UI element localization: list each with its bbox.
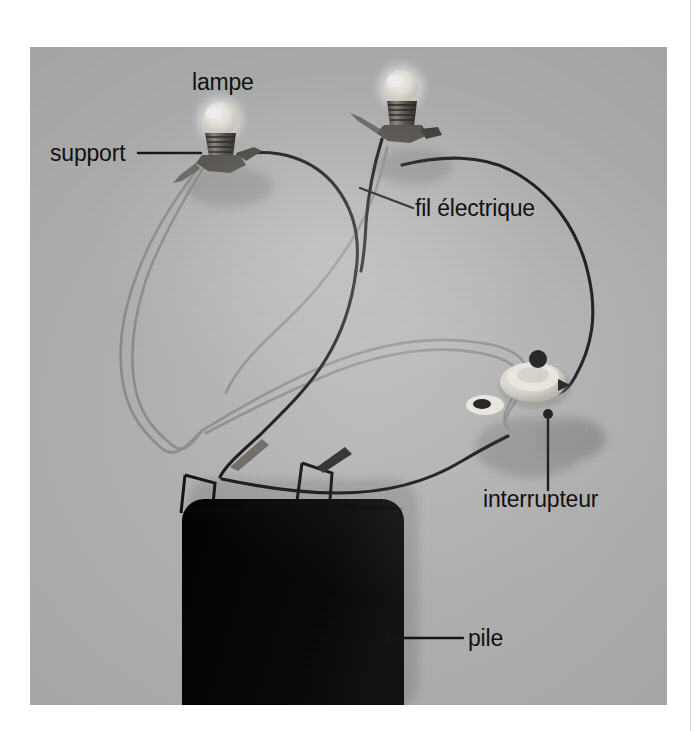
circuit-scene xyxy=(30,47,667,705)
switch-knob-dot xyxy=(529,350,547,368)
leader-dot-pile xyxy=(384,633,394,643)
pile-battery xyxy=(181,439,404,705)
annotation-label-lampe: lampe xyxy=(192,70,254,94)
annotation-label-support: support xyxy=(50,141,125,165)
annotation-label-fil-electrique: fil électrique xyxy=(415,196,535,220)
annotation-label-pile: pile xyxy=(468,626,503,650)
page-canvas: lampe support fil électrique interrupteu… xyxy=(0,0,695,731)
leader-dot-interrupteur xyxy=(543,409,553,419)
annotation-label-interrupteur: interrupteur xyxy=(483,487,598,511)
photograph xyxy=(30,47,667,705)
lampe-droite xyxy=(350,64,442,143)
sheet-right-edge xyxy=(690,0,691,731)
interrupteur-switch xyxy=(466,350,571,415)
